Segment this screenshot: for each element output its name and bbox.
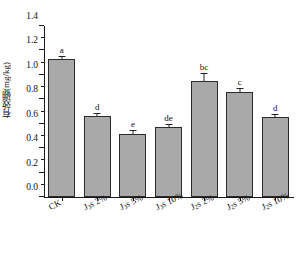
y-tick-label: 1.0 — [26, 60, 38, 70]
error-bar-stem — [61, 57, 62, 59]
y-tick-label: 0.0 — [26, 182, 38, 192]
error-bar-cap — [58, 56, 65, 57]
y-axis-title: 有效硼(mg/kg) — [1, 62, 15, 118]
bar — [262, 117, 289, 197]
y-tick-label: 0.2 — [26, 158, 38, 168]
error-bar-stem — [168, 125, 169, 127]
plot-area: 1.41.21.00.80.60.40.20.0 adedebccd — [44, 26, 293, 197]
y-tick-label: 0.8 — [26, 84, 38, 94]
significance-letter: d — [95, 103, 100, 112]
significance-letter: c — [238, 78, 242, 87]
bar-group: de — [155, 26, 182, 197]
significance-letter: bc — [200, 63, 209, 72]
error-bar-cap — [129, 130, 136, 131]
error-bar-cap — [94, 113, 101, 114]
error-bar-cap — [236, 88, 243, 89]
error-bar-stem — [275, 115, 276, 117]
y-tick-label: 1.2 — [26, 35, 38, 45]
y-tick-label: 0.6 — [26, 109, 38, 119]
error-bar-stem — [239, 89, 240, 92]
error-bar-stem — [132, 131, 133, 133]
significance-letter: e — [131, 120, 135, 129]
x-axis-category-label: CK — [47, 198, 63, 212]
y-tick-label: 0.4 — [26, 133, 38, 143]
x-tick-mark — [62, 197, 63, 201]
bar — [48, 59, 75, 197]
bar-chart: 有效硼(mg/kg) 1.41.21.00.80.60.40.20.0 aded… — [0, 0, 307, 255]
significance-letter: a — [60, 46, 64, 55]
bar-series: adedebccd — [44, 26, 293, 197]
error-bar-cap — [272, 114, 279, 115]
bar — [119, 134, 146, 198]
bar-group: e — [119, 26, 146, 197]
error-bar-stem — [204, 74, 205, 81]
significance-letter: de — [164, 114, 173, 123]
bar-group: d — [84, 26, 111, 197]
bar-group: d — [262, 26, 289, 197]
error-bar-stem — [97, 114, 98, 116]
bar-group: bc — [191, 26, 218, 197]
bar — [191, 81, 218, 197]
significance-letter: d — [273, 104, 278, 113]
bar — [226, 92, 253, 197]
bar — [155, 127, 182, 197]
bar — [84, 116, 111, 197]
error-bar-cap — [165, 124, 172, 125]
y-tick-label: 1.4 — [26, 11, 38, 21]
bar-group: c — [226, 26, 253, 197]
error-bar-cap — [201, 73, 208, 74]
bar-group: a — [48, 26, 75, 197]
